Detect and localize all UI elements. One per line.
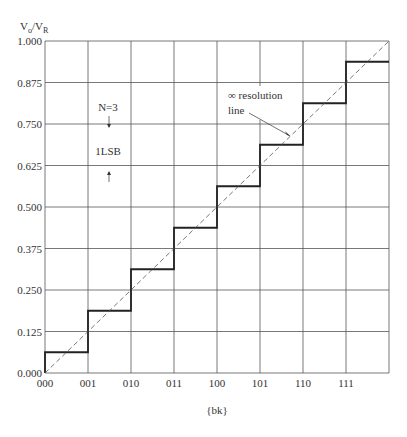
x-tick-label: 011 — [166, 377, 182, 389]
y-axis-label: Vo/VR — [20, 20, 49, 35]
x-tick-label: 110 — [295, 377, 312, 389]
x-axis-label: {bk} — [206, 404, 228, 416]
arrowhead-down-icon — [107, 124, 111, 128]
x-tick-label: 100 — [209, 377, 226, 389]
resolution-annotation-line2: line — [228, 104, 245, 116]
y-tick-label: 0.500 — [17, 201, 42, 213]
x-tick-label: 111 — [338, 377, 354, 389]
y-tick-label: 1.000 — [17, 35, 42, 47]
y-tick-label: 0.375 — [17, 243, 42, 255]
y-tick-label: 0.750 — [17, 118, 42, 130]
x-tick-label: 000 — [37, 377, 54, 389]
y-tick-label: 0.625 — [17, 160, 42, 172]
x-tick-labels: 000001010011100101110111 — [37, 377, 354, 389]
x-tick-label: 101 — [252, 377, 269, 389]
x-tick-label: 010 — [123, 377, 140, 389]
y-tick-labels: 0.0000.1250.2500.3750.5000.6250.7500.875… — [17, 35, 42, 379]
lsb-annotation: 1LSB — [95, 145, 121, 157]
n-bits-annotation: N=3 — [98, 101, 118, 113]
resolution-annotation-line1: ∞ resolution — [228, 89, 283, 101]
y-tick-label: 0.125 — [17, 326, 42, 338]
y-tick-label: 0.875 — [17, 77, 42, 89]
dac-transfer-chart: 0.0000.1250.2500.3750.5000.6250.7500.875… — [0, 0, 407, 437]
x-tick-label: 001 — [80, 377, 97, 389]
arrowhead-up-icon — [107, 171, 111, 175]
y-tick-label: 0.250 — [17, 284, 42, 296]
